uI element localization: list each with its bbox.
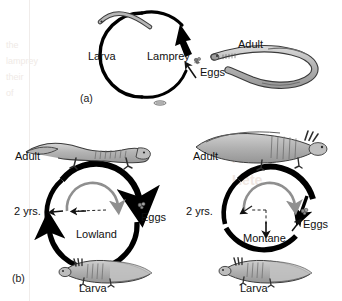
lowland-duration-label: 2 yrs. (14, 205, 41, 217)
panel-a-cycle-graphic (100, 12, 315, 105)
egg-cluster-icon-lowland (138, 202, 145, 209)
lowland-larva-label: Larva (79, 282, 107, 294)
montane-center-label: Montane (243, 232, 286, 244)
lamprey-cycle-arc-bottom (142, 71, 186, 97)
panel-b-id: (b) (12, 272, 25, 284)
montane-eggs-label: Eggs (303, 218, 328, 230)
lamprey-eggs-to-larva-arrow (187, 65, 196, 78)
panel-a-larva-label: Larva (88, 50, 116, 62)
lowland-cycle-graphic (26, 143, 152, 287)
lowland-arc-upper-left (47, 180, 62, 224)
lowland-inner-metamorphosis-arc (67, 183, 118, 211)
montane-larva-label: Larva (240, 282, 268, 294)
montane-duration-label: 2 yrs. (186, 205, 213, 217)
lamprey-larva-icon (100, 14, 150, 27)
panel-a-center-label: Lamprey (147, 50, 190, 62)
lowland-eggs-label: Eggs (141, 211, 166, 223)
small-egg-mark-icon-a (154, 101, 166, 105)
lowland-adult-label: Adult (15, 150, 40, 162)
figure-graphics (0, 0, 342, 301)
montane-eggs-return-arrow (292, 222, 299, 231)
egg-cluster-icon-a (194, 57, 200, 63)
montane-adult-label: Adult (193, 150, 218, 162)
life-cycle-figure: Larva Lamprey Adult Eggs (a) Adult 2 yrs… (0, 0, 342, 301)
panel-a-adult-label: Adult (238, 38, 263, 50)
lowland-exit-arrow (52, 211, 63, 212)
panel-a-eggs-label: Eggs (200, 66, 225, 78)
panel-a-id: (a) (80, 92, 93, 104)
montane-arc-upper-left (224, 180, 239, 224)
adult-lamprey-icon (211, 48, 315, 85)
lowland-center-label: Lowland (76, 228, 117, 240)
